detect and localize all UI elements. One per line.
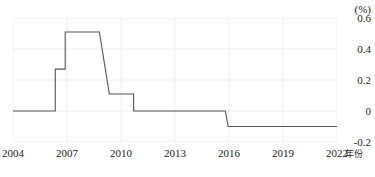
chart-root: (%) 0.60.40.20-0.2 200420072010201320162…: [0, 0, 375, 177]
x-axis-title: 年份: [345, 147, 363, 160]
chart-svg: [13, 18, 337, 142]
x-axis-tick-2019: 2019: [272, 147, 294, 159]
y-axis-tick-0p2: 0.2: [357, 74, 371, 86]
y-axis-tick-0p6: 0.6: [357, 12, 371, 24]
plot-area: [13, 18, 337, 142]
x-axis-tick-2010: 2010: [110, 147, 132, 159]
x-axis-tick-2016: 2016: [218, 147, 240, 159]
x-axis-tick-2004: 2004: [2, 147, 24, 159]
y-axis-tick-0: 0: [366, 105, 372, 117]
x-axis-tick-2013: 2013: [164, 147, 186, 159]
y-axis-tick-0p4: 0.4: [357, 43, 371, 55]
x-axis-tick-2007: 2007: [56, 147, 78, 159]
